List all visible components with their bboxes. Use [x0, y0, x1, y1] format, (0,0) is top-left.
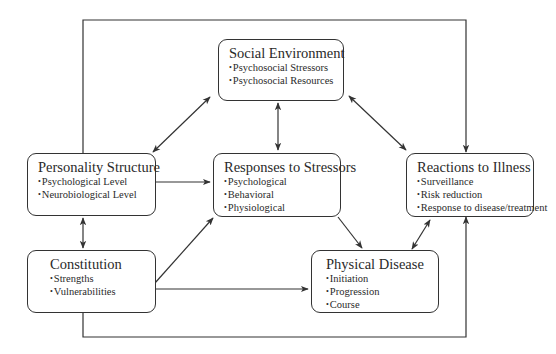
node-item: Vulnerabilities [50, 286, 155, 299]
node-title: Reactions to Illness [417, 159, 533, 175]
node-item: Behavioral [224, 189, 340, 202]
node-items: Psychosocial Stressors Psychosocial Reso… [229, 62, 343, 88]
node-item: Psychological [224, 176, 340, 189]
node-item: Neurobiological Level [38, 189, 155, 202]
node-item: Psychosocial Stressors [229, 62, 343, 75]
edge-constitution-responses [155, 218, 213, 283]
node-title: Responses to Stressors [224, 159, 340, 175]
node-reactions-to-illness: Reactions to Illness Surveillance Risk r… [406, 153, 534, 217]
node-item: Progression [326, 286, 438, 299]
edge-social-reactions [349, 96, 406, 150]
node-items: Strengths Vulnerabilities [50, 273, 155, 299]
node-items: Initiation Progression Course [326, 273, 438, 312]
edge-responses-physical [338, 217, 362, 248]
node-social-environment: Social Environment Psychosocial Stressor… [218, 39, 344, 101]
node-item: Surveillance [417, 176, 533, 189]
node-item: Physiological [224, 202, 340, 215]
node-title: Constitution [50, 256, 155, 272]
node-items: Surveillance Risk reduction Response to … [417, 176, 533, 215]
edge-physical-reactions [412, 220, 430, 249]
node-physical-disease: Physical Disease Initiation Progression … [311, 250, 439, 313]
node-item: Response to disease/treatment [417, 202, 533, 215]
edge-personality-social [153, 97, 210, 152]
node-items: Psychological Level Neurobiological Leve… [38, 176, 155, 202]
node-personality-structure: Personality Structure Psychological Leve… [27, 153, 156, 216]
node-item: Strengths [50, 273, 155, 286]
node-item: Psychosocial Resources [229, 75, 343, 88]
node-responses-to-stressors: Responses to Stressors Psychological Beh… [213, 153, 341, 217]
node-constitution: Constitution Strengths Vulnerabilities [27, 250, 156, 313]
node-item: Initiation [326, 273, 438, 286]
node-title: Physical Disease [326, 256, 438, 272]
node-items: Psychological Behavioral Physiological [224, 176, 340, 215]
node-item: Risk reduction [417, 189, 533, 202]
node-title: Social Environment [229, 45, 343, 61]
node-item: Psychological Level [38, 176, 155, 189]
node-title: Personality Structure [38, 159, 155, 175]
node-item: Course [326, 299, 438, 312]
